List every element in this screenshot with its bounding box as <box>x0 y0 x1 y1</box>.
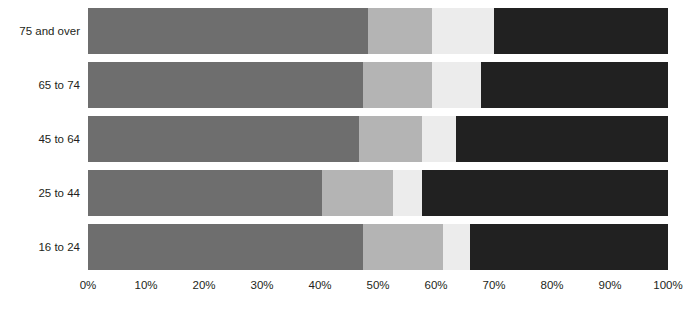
bar-segment <box>494 8 668 54</box>
bar-segment <box>88 8 368 54</box>
category-tick-label: 25 to 44 <box>0 187 80 200</box>
bar-segment <box>432 62 481 108</box>
x-axis: 0%10%20%30%40%50%60%70%80%90%100% <box>88 278 668 298</box>
bar-segment <box>481 62 668 108</box>
bar-segment <box>456 116 668 162</box>
bar-segment <box>363 62 432 108</box>
x-tick-label: 10% <box>134 278 157 292</box>
x-tick-label: 40% <box>308 278 331 292</box>
x-tick-label: 90% <box>598 278 621 292</box>
bar-row <box>88 224 668 270</box>
x-tick-label: 80% <box>540 278 563 292</box>
x-tick-label: 60% <box>424 278 447 292</box>
bar-segment <box>322 170 393 216</box>
category-tick-label: 65 to 74 <box>0 79 80 92</box>
x-tick-label: 70% <box>482 278 505 292</box>
bar-row <box>88 8 668 54</box>
bar-segment <box>88 62 363 108</box>
bar-segment <box>88 116 359 162</box>
category-tick-label: 16 to 24 <box>0 241 80 254</box>
x-tick-label: 50% <box>366 278 389 292</box>
bar-segment <box>422 170 668 216</box>
bar-segment <box>422 116 456 162</box>
bar-segment <box>393 170 422 216</box>
bar-row <box>88 62 668 108</box>
plot-area <box>88 8 668 272</box>
bar-segment <box>432 8 494 54</box>
bar-row <box>88 116 668 162</box>
bar-segment <box>443 224 470 270</box>
bar-segment <box>470 224 668 270</box>
bar-segment <box>363 224 443 270</box>
bar-segment <box>359 116 422 162</box>
category-tick-label: 75 and over <box>0 25 80 38</box>
bar-segment <box>368 8 432 54</box>
category-axis: 75 and over 65 to 74 45 to 64 25 to 44 1… <box>0 8 80 272</box>
x-tick-label: 0% <box>80 278 97 292</box>
bar-row <box>88 170 668 216</box>
x-tick-label: 20% <box>192 278 215 292</box>
x-tick-label: 100% <box>653 278 682 292</box>
x-tick-label: 30% <box>250 278 273 292</box>
category-tick-label: 45 to 64 <box>0 133 80 146</box>
stacked-bar-chart: 75 and over 65 to 74 45 to 64 25 to 44 1… <box>0 0 687 314</box>
bar-segment <box>88 170 322 216</box>
bar-segment <box>88 224 363 270</box>
